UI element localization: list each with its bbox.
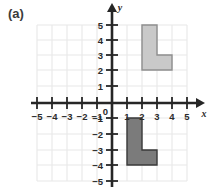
y-tick-label: −2	[92, 129, 103, 140]
dark-l-shape	[127, 118, 157, 165]
x-tick-label: 4	[169, 111, 175, 122]
y-tick-label: −4	[92, 160, 104, 171]
x-axis-arrow	[196, 98, 205, 108]
x-tick-label: 5	[184, 111, 190, 122]
x-axis-label: x	[201, 108, 207, 119]
light-l-shape	[142, 25, 172, 70]
y-axis-arrow	[107, 3, 117, 12]
x-tick-label: 1	[124, 111, 130, 122]
coordinate-plane-plot: −5 −4 −3 −2 −1 1 2 3 4 5 5 4 3 2 1 −1 −2…	[0, 0, 209, 194]
origin-label: 0	[103, 106, 108, 117]
y-tick-label: 4	[98, 35, 104, 46]
y-tick-label: −3	[92, 145, 103, 156]
y-tick-label: 3	[98, 50, 103, 61]
x-tick-label: −3	[62, 111, 73, 122]
x-tick-label: −5	[32, 111, 44, 122]
figure-panel: (a)	[0, 0, 209, 194]
axes	[31, 3, 205, 187]
y-tick-label: 5	[98, 20, 104, 31]
y-tick-label: −5	[92, 176, 104, 187]
x-tick-label: −2	[77, 111, 88, 122]
x-tick-label: 2	[139, 111, 144, 122]
y-axis-label: y	[117, 2, 123, 13]
x-tick-label: −4	[47, 111, 59, 122]
y-tick-label: 2	[98, 65, 103, 76]
x-tick-label: 3	[154, 111, 159, 122]
y-tick-label: 1	[98, 81, 104, 92]
